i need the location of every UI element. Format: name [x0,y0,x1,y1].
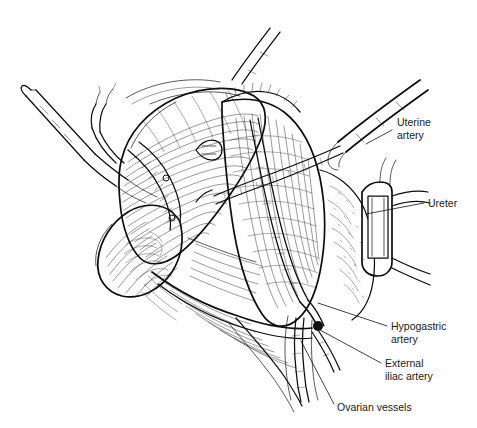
label-uterine-artery-line1: Uterine [397,116,431,128]
label-hypogastric-artery-line2: artery [391,333,419,345]
label-ovarian-vessels-line1: Ovarian vessels [337,401,412,413]
label-ureter-line1: Ureter [428,197,458,209]
label-uterine-artery-line2: artery [397,129,425,141]
label-external-iliac-artery-line2: iliac artery [385,370,434,382]
pelvic-anatomy-illustration: Uterine artery Ureter Hypogastric artery… [0,0,477,428]
label-external-iliac-artery-line1: External [385,357,424,369]
label-hypogastric-artery-line1: Hypogastric [391,320,446,332]
